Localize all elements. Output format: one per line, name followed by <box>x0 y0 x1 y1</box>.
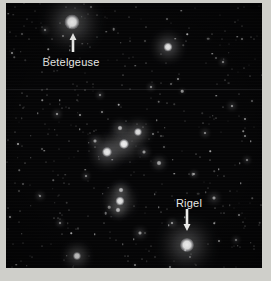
faint-star <box>216 118 217 119</box>
faint-star <box>8 139 9 140</box>
faint-star <box>252 198 254 200</box>
pointer-arrow-betelgeuse <box>69 33 78 52</box>
faint-star <box>146 63 147 64</box>
faint-star <box>237 7 238 8</box>
faint-star <box>142 127 143 128</box>
faint-star <box>183 44 185 46</box>
faint-star <box>94 146 95 147</box>
faint-star <box>133 239 135 241</box>
faint-star <box>99 159 100 160</box>
faint-star <box>175 38 177 40</box>
faint-star <box>221 132 222 133</box>
faint-star <box>105 16 106 17</box>
faint-star <box>207 243 208 244</box>
faint-star <box>18 190 20 192</box>
faint-star <box>68 108 69 109</box>
faint-star <box>84 4 85 5</box>
faint-star <box>50 104 51 105</box>
faint-star <box>52 170 53 171</box>
star <box>39 195 42 198</box>
faint-star <box>197 192 200 195</box>
faint-star <box>117 59 118 60</box>
faint-star <box>21 118 23 120</box>
faint-star <box>254 38 255 39</box>
faint-star <box>117 32 118 33</box>
faint-star <box>219 45 220 46</box>
faint-star <box>258 221 261 224</box>
faint-star <box>111 216 113 218</box>
faint-star <box>251 100 253 102</box>
faint-star <box>62 233 63 234</box>
faint-star <box>9 50 10 51</box>
faint-star <box>122 243 124 245</box>
faint-star <box>221 39 222 40</box>
faint-star <box>132 141 133 142</box>
faint-star <box>57 175 58 176</box>
faint-star <box>15 35 16 36</box>
faint-star <box>160 53 161 54</box>
faint-star <box>169 266 171 268</box>
star <box>235 239 238 242</box>
faint-star <box>224 30 225 31</box>
faint-star <box>231 69 232 70</box>
faint-star <box>22 242 23 243</box>
faint-star <box>200 157 201 158</box>
faint-star <box>254 249 255 250</box>
faint-star <box>172 159 174 161</box>
faint-star <box>92 84 93 85</box>
faint-star <box>150 97 151 98</box>
faint-star <box>143 175 144 176</box>
star <box>246 159 249 162</box>
faint-star <box>232 246 233 247</box>
faint-star <box>77 228 78 229</box>
faint-star <box>210 160 211 161</box>
star <box>231 105 234 108</box>
faint-star <box>154 193 156 195</box>
faint-star <box>141 18 142 19</box>
faint-star <box>242 26 243 27</box>
faint-star <box>14 48 15 49</box>
faint-star <box>256 35 257 36</box>
faint-star <box>19 170 21 172</box>
faint-star <box>236 191 237 192</box>
plate-seam-line <box>6 89 262 90</box>
faint-star <box>20 51 22 53</box>
faint-star <box>115 239 116 240</box>
faint-star <box>171 196 172 197</box>
faint-star <box>56 134 57 135</box>
star <box>142 150 146 154</box>
faint-star <box>46 161 47 162</box>
faint-star <box>66 201 69 204</box>
faint-star <box>21 146 22 147</box>
faint-star <box>22 93 23 94</box>
faint-star <box>240 182 242 184</box>
faint-star <box>93 90 94 91</box>
faint-star <box>221 213 222 214</box>
faint-star <box>249 65 250 66</box>
faint-star <box>163 136 164 137</box>
faint-star <box>30 157 32 159</box>
faint-star <box>41 148 43 150</box>
faint-star <box>41 27 42 28</box>
faint-star <box>129 57 130 58</box>
faint-star <box>216 83 217 84</box>
faint-star <box>250 140 252 142</box>
faint-star <box>97 14 98 15</box>
faint-star <box>134 171 135 172</box>
faint-star <box>228 83 229 84</box>
faint-star <box>244 127 245 128</box>
faint-star <box>75 229 76 230</box>
faint-star <box>102 193 104 195</box>
faint-star <box>237 71 238 72</box>
faint-star <box>70 124 71 125</box>
faint-star <box>166 18 168 20</box>
faint-star <box>203 181 204 182</box>
faint-star <box>50 244 51 245</box>
faint-star <box>244 217 245 218</box>
sky-plate: BetelgeuseRigel <box>6 3 262 268</box>
faint-star <box>70 232 72 234</box>
film-grain-overlay <box>6 3 262 268</box>
faint-star <box>19 221 20 222</box>
faint-star <box>101 111 103 113</box>
faint-star <box>236 267 237 268</box>
